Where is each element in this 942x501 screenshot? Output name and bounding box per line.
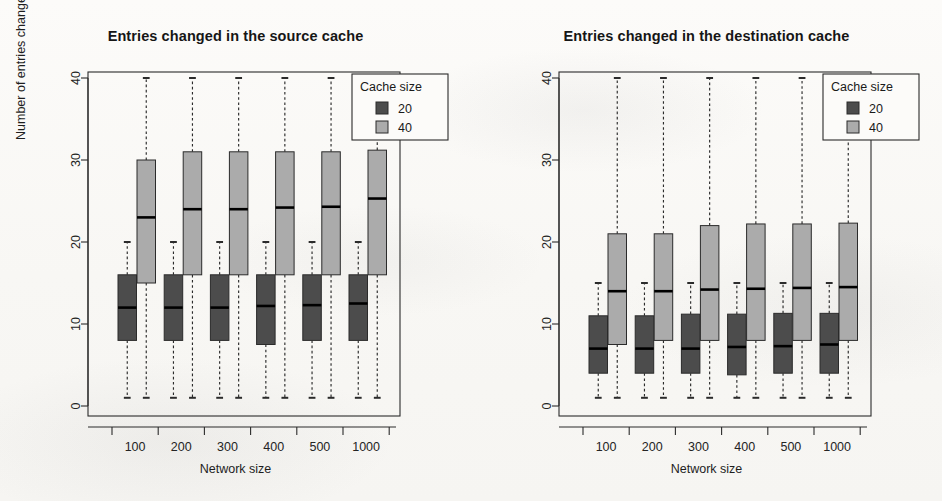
boxplot-box [210,242,229,398]
box-body [322,152,341,275]
boxplot-box [183,78,202,398]
x-tick-label: 300 [217,440,238,454]
boxplot-box [681,283,700,398]
x-tick-label: 300 [688,440,709,454]
box-body [747,224,766,340]
boxplot-box [747,78,766,398]
box-body [700,226,719,341]
boxplot-box [820,283,839,398]
box-body [793,224,812,340]
y-axis: 010203040 [540,71,560,409]
legend-swatch [847,102,859,114]
box-body [654,234,673,341]
boxplot-box [164,242,183,398]
boxplot-figure: Entries changed in the source cache Numb… [0,0,942,501]
box-body [589,316,608,373]
box-body [303,275,322,341]
legend-label: 20 [869,102,883,116]
x-tick-label: 500 [780,440,801,454]
x-tick-label: 1000 [823,440,851,454]
legend-swatch [376,121,388,133]
legend-label: 40 [398,121,412,135]
box-body [635,316,654,373]
box-body [839,223,858,340]
legend-label: 40 [869,121,883,135]
legend: Cache size2040 [352,74,448,140]
x-axis: 1002003004005001000 [559,427,867,454]
boxplot-series-group [118,78,387,398]
x-tick-label: 100 [125,440,146,454]
y-tick-label: 20 [540,235,554,249]
box-body [276,152,295,275]
boxplot-series-group [589,78,858,398]
boxplot-box [589,283,608,398]
legend-swatch [376,102,388,114]
box-body [728,314,747,375]
panel-destination-cache: Entries changed in the destination cache… [471,0,942,501]
box-body [368,150,387,275]
y-tick-label: 0 [540,402,554,409]
box-body [608,234,627,345]
box-body [229,152,248,275]
boxplot-box [257,242,276,398]
y-axis: 010203040 [69,71,89,409]
x-tick-label: 1000 [352,440,380,454]
boxplot-box [303,242,322,398]
boxplot-box [700,78,719,398]
legend-label: 20 [398,102,412,116]
boxplot-box [276,78,295,398]
boxplot-box [229,78,248,398]
plot-area-source: 0102030401002003004005001000Cache size20… [0,0,471,501]
x-tick-label: 200 [642,440,663,454]
x-axis: 1002003004005001000 [88,427,396,454]
box-body [257,275,276,345]
y-tick-label: 30 [69,153,83,167]
boxplot-box [608,78,627,398]
legend-title: Cache size [831,80,893,94]
box-body [137,160,156,283]
plot-area-destination: 0102030401002003004005001000Cache size20… [471,0,942,501]
y-tick-label: 10 [540,317,554,331]
boxplot-box [793,78,812,398]
panel-source-cache: Entries changed in the source cache Numb… [0,0,471,501]
boxplot-box [774,283,793,398]
box-body [774,313,793,373]
y-tick-label: 0 [69,402,83,409]
x-tick-label: 400 [734,440,755,454]
legend: Cache size2040 [823,74,919,140]
boxplot-box [635,283,654,398]
y-tick-label: 40 [540,71,554,85]
y-tick-label: 10 [69,317,83,331]
box-body [183,152,202,275]
box-body [349,275,368,341]
x-tick-label: 500 [309,440,330,454]
boxplot-box [322,78,341,398]
boxplot-box [728,283,747,398]
boxplot-box [654,78,673,398]
y-tick-label: 30 [540,153,554,167]
boxplot-box [118,242,137,398]
boxplot-box [349,242,368,398]
box-body [681,314,700,373]
y-tick-label: 40 [69,71,83,85]
legend-swatch [847,121,859,133]
y-tick-label: 20 [69,235,83,249]
boxplot-box [137,78,156,398]
x-tick-label: 400 [263,440,284,454]
legend-title: Cache size [360,80,422,94]
x-tick-label: 200 [171,440,192,454]
x-tick-label: 100 [596,440,617,454]
